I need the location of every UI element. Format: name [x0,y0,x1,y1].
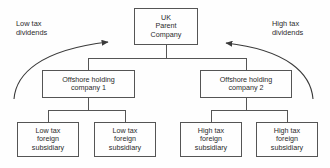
diagram-canvas: Low tax dividends High tax dividends UK … [0,0,330,168]
node-offshore-holding-company-2: Offshore holding company 2 [200,70,292,98]
node-high-tax-foreign-subsidiary-2-line-3: subsidiary [271,144,303,152]
node-high-tax-foreign-subsidiary-1: High tax foreign subsidiary [180,122,242,157]
node-uk-parent-company: UK Parent Company [134,8,198,45]
low-tax-dividends-label-line-2: dividends [16,28,47,37]
node-uk-parent-company-line-3: Company [151,31,182,39]
node-offshore-holding-company-1-line-2: company 1 [71,84,106,92]
node-low-tax-foreign-subsidiary-1: Low tax foreign subsidiary [17,122,79,157]
low-tax-dividends-label-line-1: Low tax [16,19,47,28]
high-tax-dividends-label: High tax dividends [272,19,303,37]
high-tax-dividends-label-line-1: High tax [272,19,303,28]
node-low-tax-foreign-subsidiary-2-line-3: subsidiary [109,144,141,152]
node-low-tax-foreign-subsidiary-2: Low tax foreign subsidiary [94,122,156,157]
low-tax-dividends-label: Low tax dividends [16,19,47,37]
node-offshore-holding-company-1: Offshore holding company 1 [42,70,135,98]
node-low-tax-foreign-subsidiary-1-line-3: subsidiary [32,144,64,152]
node-high-tax-foreign-subsidiary-1-line-3: subsidiary [195,144,227,152]
node-offshore-holding-company-2-line-2: company 2 [228,84,263,92]
node-high-tax-foreign-subsidiary-2: High tax foreign subsidiary [256,122,318,157]
high-tax-dividends-label-line-2: dividends [272,28,303,37]
